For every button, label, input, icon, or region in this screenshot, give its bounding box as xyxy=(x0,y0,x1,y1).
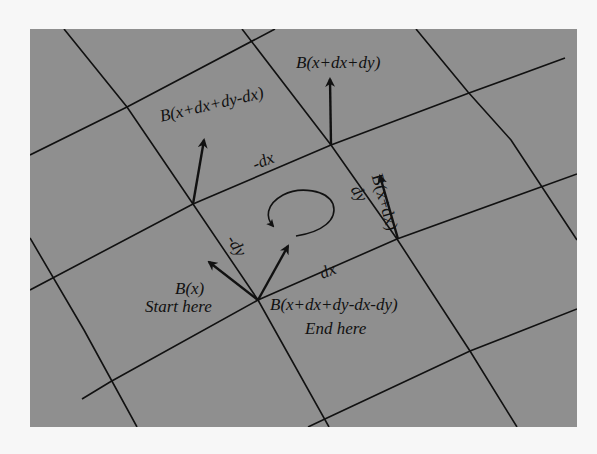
grid-line-steep-4 xyxy=(416,29,577,240)
vector-arrow-b-x-dx-dy-dx xyxy=(193,140,204,204)
vector-arrow-b-end xyxy=(258,246,288,300)
vector-arrow-b-x-dx-dy xyxy=(330,79,331,145)
grid-line-shallow-2 xyxy=(30,58,565,290)
grid-lines xyxy=(30,29,577,427)
label-b-end: B(x+dx+dy-dx-dy) xyxy=(270,296,398,313)
vector-arrow-b-x xyxy=(209,262,258,300)
label-end-here: End here xyxy=(305,320,366,337)
rotation-loop-icon xyxy=(268,190,334,236)
grid-line-steep-3 xyxy=(242,29,517,427)
label-b-x-dx-dy: B(x+dx+dy) xyxy=(296,54,380,71)
label-start-here: Start here xyxy=(145,298,212,315)
label-b-x: B(x) xyxy=(175,280,204,297)
grid-line-shallow-3 xyxy=(82,174,577,399)
